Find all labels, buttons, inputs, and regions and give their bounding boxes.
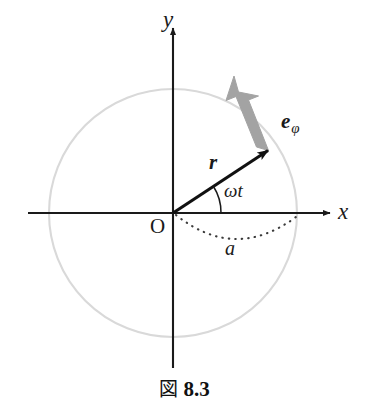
radius-label: a <box>225 238 235 258</box>
e-phi-base: e <box>281 109 290 133</box>
figure-container: y x O r ωt a eφ 図8.3 <box>0 0 369 410</box>
x-axis-label: x <box>338 200 348 223</box>
circular-motion-diagram <box>0 0 369 410</box>
figure-caption: 図8.3 <box>0 374 369 402</box>
y-axis-label: y <box>163 8 173 31</box>
caption-number: 8.3 <box>183 377 209 401</box>
e-phi-subscript: φ <box>291 120 299 136</box>
position-vector-label: r <box>209 152 217 173</box>
e-phi-label: eφ <box>281 111 299 132</box>
angle-label: ωt <box>224 181 243 200</box>
origin-label: O <box>150 216 165 237</box>
e-phi-arrow <box>226 76 269 151</box>
caption-kanji: 図 <box>159 378 178 400</box>
radius-dotted-arc <box>176 215 296 239</box>
angle-arc-omega-t <box>214 187 222 214</box>
